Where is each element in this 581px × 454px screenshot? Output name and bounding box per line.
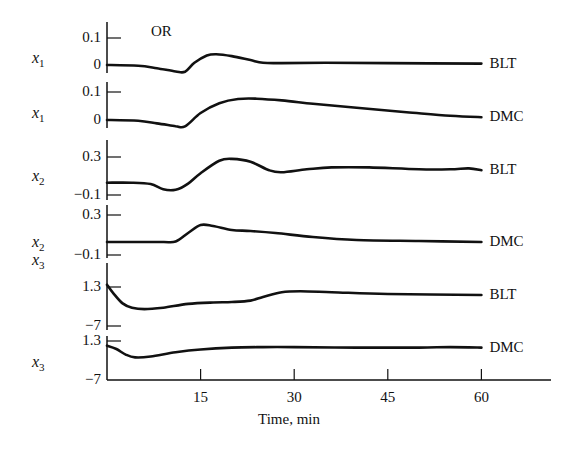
- x-tick-label: 30: [287, 390, 302, 405]
- chart-title: OR: [151, 24, 172, 39]
- y-tick-label: 0.1: [61, 84, 101, 99]
- series-label: DMC: [489, 234, 523, 249]
- series-line-dmc: [107, 99, 481, 128]
- y-axis-label: x1: [32, 105, 45, 124]
- y-tick-label: 1.3: [61, 279, 101, 294]
- x-axis-label: Time, min: [258, 412, 320, 427]
- chart-root: OR 153045600.10x1BLT0.10x1DMC0.3−0.1x2BL…: [0, 0, 581, 454]
- y-axis-subscript: 3: [39, 259, 45, 271]
- series-line-blt: [107, 159, 481, 191]
- x-tick-label: 60: [474, 390, 489, 405]
- y-tick-label: −0.1: [61, 247, 101, 262]
- y-tick-label: 0.1: [61, 30, 101, 45]
- series-line-blt: [107, 54, 481, 72]
- y-axis-label: x2: [32, 168, 45, 187]
- series-label: DMC: [489, 340, 523, 355]
- y-axis-subscript: 1: [39, 57, 45, 69]
- y-tick-label: 1.3: [61, 333, 101, 348]
- y-axis-subscript: 2: [39, 175, 45, 187]
- y-tick-label: 0.3: [61, 207, 101, 222]
- y-axis-label: x3: [32, 354, 45, 373]
- y-axis-subscript: 1: [39, 112, 45, 124]
- x-tick-label: 45: [380, 390, 395, 405]
- series-label: BLT: [489, 287, 516, 302]
- y-axis-subscript: 3: [39, 361, 45, 373]
- series-label: BLT: [489, 56, 516, 71]
- y-tick-label: −7: [61, 318, 101, 333]
- y-tick-label: 0.3: [61, 149, 101, 164]
- series-line-dmc: [107, 225, 481, 243]
- y-axis-label: x3: [32, 252, 45, 271]
- series-line-dmc: [107, 346, 481, 358]
- series-label: DMC: [489, 109, 523, 124]
- y-tick-label: 0: [61, 112, 101, 127]
- y-tick-label: −0.1: [61, 187, 101, 202]
- y-tick-label: −7: [61, 372, 101, 387]
- series-label: BLT: [489, 162, 516, 177]
- series-line-blt: [107, 285, 481, 309]
- y-tick-label: 0: [61, 57, 101, 72]
- y-axis-label: x1: [32, 50, 45, 69]
- x-tick-label: 15: [193, 390, 208, 405]
